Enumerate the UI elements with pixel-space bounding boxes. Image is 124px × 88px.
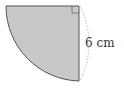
quarter-circle-shape — [6, 6, 79, 81]
radius-label: 6 cm — [85, 36, 115, 50]
